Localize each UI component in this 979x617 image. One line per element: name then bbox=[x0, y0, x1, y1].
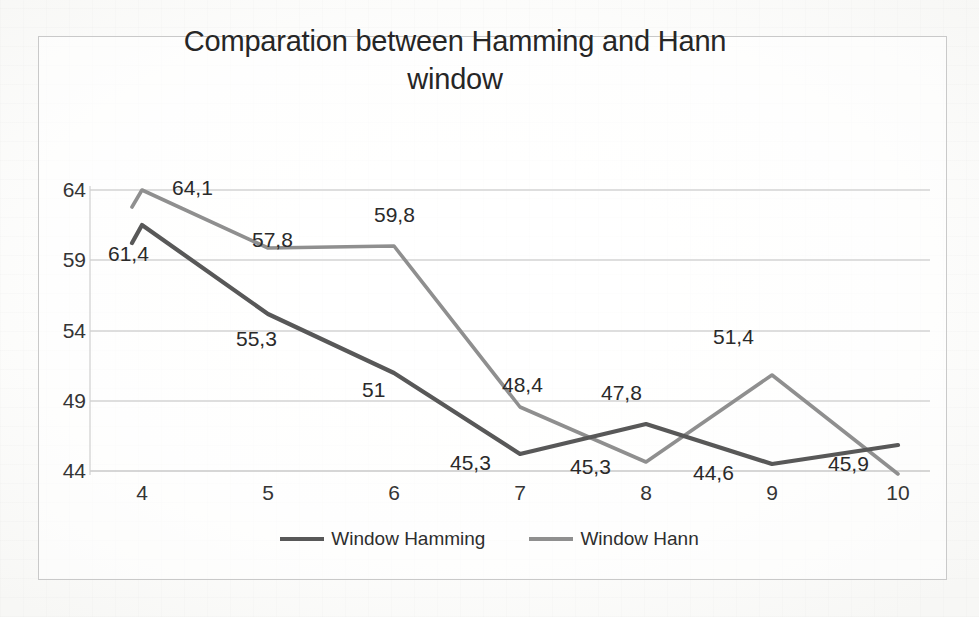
chart-title-line-2: window bbox=[80, 60, 830, 98]
x-tick-label-5: 5 bbox=[243, 481, 293, 505]
data-label-hamming-4: 61,4 bbox=[108, 242, 149, 266]
y-tick-label-44: 44 bbox=[40, 459, 86, 483]
data-label-hamming-5: 55,3 bbox=[236, 327, 277, 351]
data-label-hamming-10: 45,9 bbox=[828, 452, 869, 476]
legend-entry-window-hann[interactable]: Window Hann bbox=[529, 528, 698, 550]
data-label-hamming-7: 45,3 bbox=[450, 451, 491, 475]
legend-label-window-hann: Window Hann bbox=[580, 528, 698, 550]
data-label-hann-4: 64,1 bbox=[172, 176, 213, 200]
y-tick-label-64: 64 bbox=[40, 178, 86, 202]
data-label-hann-5: 57,8 bbox=[252, 228, 293, 252]
x-tick-label-10: 10 bbox=[873, 481, 923, 505]
y-tick-label-49: 49 bbox=[40, 389, 86, 413]
legend-swatch-window-hamming bbox=[280, 537, 324, 541]
x-tick-label-9: 9 bbox=[747, 481, 797, 505]
x-tick-label-6: 6 bbox=[369, 481, 419, 505]
data-label-hann-9: 51,4 bbox=[713, 325, 754, 349]
data-label-hann-6: 59,8 bbox=[374, 203, 415, 227]
data-label-hamming-8: 47,8 bbox=[601, 381, 642, 405]
x-tick-label-4: 4 bbox=[117, 481, 167, 505]
data-label-hann-8: 45,3 bbox=[570, 455, 611, 479]
x-tick-label-7: 7 bbox=[495, 481, 545, 505]
x-tick-label-8: 8 bbox=[621, 481, 671, 505]
chart-frame bbox=[38, 36, 947, 580]
legend-entry-window-hamming[interactable]: Window Hamming bbox=[280, 528, 485, 550]
chart-title: Comparation between Hamming and Hann win… bbox=[80, 22, 830, 98]
data-label-hamming-6: 51 bbox=[362, 378, 385, 402]
chart-title-line-1: Comparation between Hamming and Hann bbox=[80, 22, 830, 60]
chart-legend: Window Hamming Window Hann bbox=[0, 528, 979, 550]
data-label-hann-7: 48,4 bbox=[502, 373, 543, 397]
legend-label-window-hamming: Window Hamming bbox=[331, 528, 485, 550]
y-tick-label-59: 59 bbox=[40, 248, 86, 272]
data-label-hamming-9: 44,6 bbox=[693, 461, 734, 485]
y-tick-label-54: 54 bbox=[40, 319, 86, 343]
legend-swatch-window-hann bbox=[529, 537, 573, 541]
